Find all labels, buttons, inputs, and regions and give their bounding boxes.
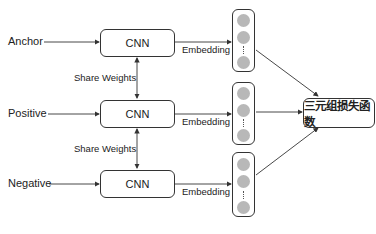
cnn-box-positive: CNN — [100, 100, 175, 128]
cnn-box-anchor: CNN — [100, 29, 175, 57]
triplet-loss-label: 三元组损失函数 — [304, 97, 374, 129]
input-label-negative: Negative — [8, 177, 51, 189]
embedding-label-anchor: Embedding — [182, 44, 230, 55]
share-weights-label-1: Share Weights — [74, 72, 136, 83]
embedding-vector-anchor — [232, 9, 255, 72]
vector-node — [237, 129, 250, 142]
vector-node — [237, 175, 250, 188]
anchor-to-loss-arrow — [256, 50, 318, 96]
vector-node — [237, 14, 250, 27]
vector-node — [237, 56, 250, 69]
embedding-label-negative: Embedding — [182, 186, 230, 197]
embedding-vector-negative — [232, 152, 255, 217]
negative-to-loss-arrow — [256, 128, 318, 175]
vector-node — [237, 158, 250, 171]
embedding-vector-positive — [232, 82, 255, 145]
vector-node — [237, 87, 250, 100]
embedding-label-positive: Embedding — [182, 116, 230, 127]
input-label-positive: Positive — [8, 107, 47, 119]
cnn-label: CNN — [126, 178, 150, 190]
ellipsis-icon — [243, 119, 245, 127]
triplet-loss-box: 三元组损失函数 — [303, 98, 375, 128]
ellipsis-icon — [243, 46, 245, 54]
cnn-box-negative: CNN — [100, 170, 175, 198]
input-label-anchor: Anchor — [8, 35, 43, 47]
vector-node — [237, 201, 250, 214]
vector-node — [237, 104, 250, 117]
vector-node — [237, 31, 250, 44]
ellipsis-icon — [243, 191, 245, 199]
share-weights-label-2: Share Weights — [74, 143, 136, 154]
cnn-label: CNN — [126, 37, 150, 49]
cnn-label: CNN — [126, 108, 150, 120]
